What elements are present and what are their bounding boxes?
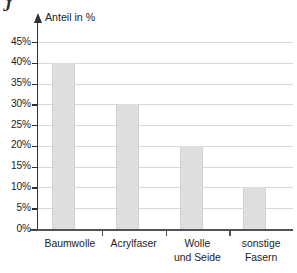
y-axis-tick-label: 20% <box>0 139 31 150</box>
y-axis-tick-label: 45% <box>0 36 31 47</box>
bar <box>243 187 266 229</box>
x-axis-tick <box>229 230 230 236</box>
y-axis-tick <box>32 63 37 64</box>
gridline <box>38 42 293 43</box>
y-axis-tick-label: 25% <box>0 119 31 130</box>
y-axis-tick-label: 35% <box>0 77 31 88</box>
x-axis-tick <box>166 230 167 236</box>
y-axis-tick <box>32 146 37 147</box>
gridline <box>38 167 293 168</box>
y-axis-arrow-icon <box>34 13 42 23</box>
bar <box>180 146 203 229</box>
y-axis-tick-labels: 0%5%10%15%20%25%30%35%40%45% <box>0 0 31 273</box>
y-axis-tick-label: 5% <box>0 202 31 213</box>
gridline <box>38 63 293 64</box>
y-axis-tick <box>32 84 37 85</box>
y-axis-title: Anteil in % <box>45 11 95 23</box>
y-axis-tick-label: 10% <box>0 181 31 192</box>
y-axis-line <box>37 22 38 230</box>
gridline <box>38 84 293 85</box>
y-axis-tick <box>32 167 37 168</box>
y-axis-tick <box>32 125 37 126</box>
y-axis-tick-label: 0% <box>0 223 31 234</box>
x-axis-tick-label: Baumwolle <box>38 237 102 251</box>
y-axis-tick <box>32 104 37 105</box>
y-axis-tick <box>32 187 37 188</box>
gridline <box>38 146 293 147</box>
bar <box>52 63 75 229</box>
y-axis-tick-label: 15% <box>0 160 31 171</box>
x-axis-tick-label: sonstige Fasern <box>229 237 293 264</box>
bar-chart: J Anteil in % 0%5%10%15%20%25%30%35%40%4… <box>0 0 297 273</box>
y-axis-tick <box>32 208 37 209</box>
y-axis-tick-label: 40% <box>0 56 31 67</box>
gridline <box>38 104 293 105</box>
x-axis-tick-label: Acrylfaser <box>102 237 166 251</box>
x-axis-tick <box>102 230 103 236</box>
x-axis-line <box>30 229 293 231</box>
y-axis-tick <box>32 229 37 230</box>
y-axis-tick <box>32 42 37 43</box>
x-axis-tick-label: Wolle und Seide <box>166 237 230 264</box>
bar <box>116 104 139 229</box>
y-axis-tick-label: 30% <box>0 98 31 109</box>
gridline <box>38 125 293 126</box>
